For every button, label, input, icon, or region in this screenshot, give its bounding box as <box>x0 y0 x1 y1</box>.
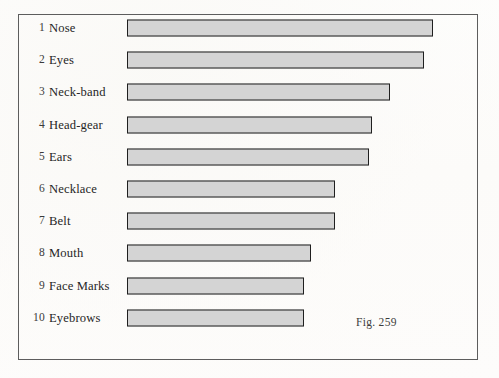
bar-row: 8Mouth <box>19 241 477 265</box>
row-label: Belt <box>49 215 71 228</box>
bar-track <box>127 245 477 262</box>
bar <box>127 52 424 69</box>
row-label: Neck-band <box>49 86 106 99</box>
bar <box>127 148 369 165</box>
bar <box>127 116 372 133</box>
bar-track <box>127 20 477 37</box>
row-number: 1 <box>19 22 45 34</box>
bar-track <box>127 309 477 326</box>
row-number: 8 <box>19 248 45 260</box>
bar <box>127 84 390 101</box>
bar-track <box>127 84 477 101</box>
row-number: 7 <box>19 215 45 227</box>
bar-row: 5Ears <box>19 145 477 169</box>
row-label: Face Marks <box>49 279 110 292</box>
bar-track <box>127 116 477 133</box>
bar-row: 3Neck-band <box>19 80 477 104</box>
row-label: Mouth <box>49 247 83 260</box>
bar <box>127 277 304 294</box>
bar-chart-plot-area: 1Nose2Eyes3Neck-band4Head-gear5Ears6Neck… <box>19 15 477 359</box>
row-number: 5 <box>19 151 45 163</box>
row-label: Eyebrows <box>49 312 101 325</box>
row-label: Ears <box>49 151 72 164</box>
row-label: Nose <box>49 22 75 35</box>
bar-track <box>127 277 477 294</box>
bar <box>127 309 304 326</box>
row-number: 3 <box>19 87 45 99</box>
bar-row: 9Face Marks <box>19 274 477 298</box>
bar-row: 1Nose <box>19 16 477 40</box>
figure-root: 1Nose2Eyes3Neck-band4Head-gear5Ears6Neck… <box>0 0 499 378</box>
row-label: Necklace <box>49 183 97 196</box>
bar-row: 10Eyebrows <box>19 306 477 330</box>
bar <box>127 20 433 37</box>
bar-track <box>127 148 477 165</box>
bar-row: 6Necklace <box>19 177 477 201</box>
row-number: 10 <box>19 312 45 324</box>
chart-frame-border: 1Nose2Eyes3Neck-band4Head-gear5Ears6Neck… <box>18 14 478 360</box>
row-label: Eyes <box>49 54 74 67</box>
bar-row: 4Head-gear <box>19 113 477 137</box>
bar <box>127 245 311 262</box>
bar-row: 2Eyes <box>19 48 477 72</box>
bar-row: 7Belt <box>19 209 477 233</box>
row-number: 6 <box>19 183 45 195</box>
row-number: 4 <box>19 119 45 131</box>
bar-track <box>127 181 477 198</box>
figure-caption: Fig. 259 <box>356 316 397 328</box>
row-number: 9 <box>19 280 45 292</box>
bar <box>127 213 335 230</box>
bar-track <box>127 213 477 230</box>
bar-track <box>127 52 477 69</box>
row-label: Head-gear <box>49 118 103 131</box>
bar <box>127 181 335 198</box>
row-number: 2 <box>19 54 45 66</box>
